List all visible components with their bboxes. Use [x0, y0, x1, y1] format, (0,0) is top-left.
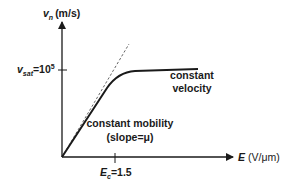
annotation-constant-mobility-line1: constant mobility: [87, 117, 174, 129]
y-tick-value: =10: [33, 63, 51, 75]
annotation-constant-velocity-line2: velocity: [172, 82, 211, 94]
x-tick-value: =1.5: [111, 166, 132, 178]
annotation-constant-velocity-line1: constant: [170, 69, 214, 81]
y-tick-exponent: 5: [51, 63, 55, 70]
x-tick-label: Ec=1.5: [100, 166, 132, 180]
y-tick-label: vsat=105: [17, 63, 55, 77]
velocity-field-diagram: vn(m/s) vsat=105 E(V/μm) Ec=1.5 constant…: [0, 0, 295, 189]
y-axis-subscript: n: [49, 14, 53, 21]
x-axis-label: E(V/μm): [238, 151, 280, 163]
y-axis-label: vn(m/s): [43, 7, 80, 21]
x-axis-symbol: E: [238, 151, 246, 163]
x-axis-unit: (V/μm): [248, 151, 280, 163]
annotation-constant-mobility-line2: (slope=μ): [107, 131, 154, 143]
y-axis-unit: (m/s): [55, 7, 80, 19]
